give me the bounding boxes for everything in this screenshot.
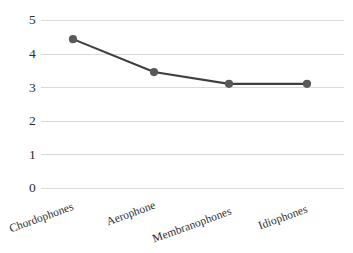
x-tick-label-membranophones: Membranophones bbox=[151, 206, 233, 245]
line-chart: 5 4 3 2 1 0 Chordophones Aerophone Membr… bbox=[0, 0, 353, 253]
data-point-3 bbox=[303, 80, 311, 88]
series-line bbox=[73, 39, 307, 84]
data-point-0 bbox=[69, 35, 77, 43]
x-tick-label-idiophones: Idiophones bbox=[257, 204, 309, 232]
x-axis: Chordophones Aerophone Membranophones Id… bbox=[0, 188, 353, 253]
data-point-2 bbox=[225, 80, 233, 88]
x-tick-label-aerophone: Aerophone bbox=[105, 200, 157, 228]
x-tick-label-chordophones: Chordophones bbox=[8, 201, 75, 235]
series-markers bbox=[69, 35, 311, 88]
data-point-1 bbox=[150, 68, 158, 76]
